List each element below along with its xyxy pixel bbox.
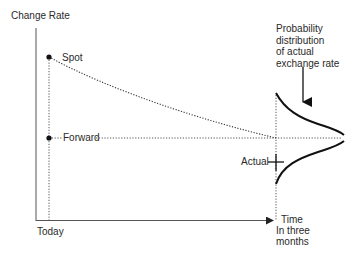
distribution-lower-curve <box>276 141 344 184</box>
actual-label: Actual <box>241 156 269 168</box>
distribution-label: Probability distribution of actual excha… <box>276 23 339 69</box>
distribution-label-line-3: of actual <box>276 46 339 58</box>
spot-curve <box>49 57 276 138</box>
forward-point <box>46 135 51 140</box>
three-months-label: In three months <box>276 225 310 247</box>
forward-label: Forward <box>63 132 100 144</box>
distribution-label-line-1: Probability <box>276 23 339 35</box>
distribution-label-line-2: distribution <box>276 35 339 47</box>
distribution-upper-curve <box>276 93 344 135</box>
distribution-label-line-4: exchange rate <box>276 58 339 70</box>
three-months-label-line-2: months <box>276 236 310 247</box>
y-axis-label: Change Rate <box>11 10 70 22</box>
spot-point <box>46 54 51 59</box>
today-label: Today <box>37 226 64 238</box>
spot-label: Spot <box>62 52 83 64</box>
three-months-label-line-1: In three <box>276 225 310 236</box>
